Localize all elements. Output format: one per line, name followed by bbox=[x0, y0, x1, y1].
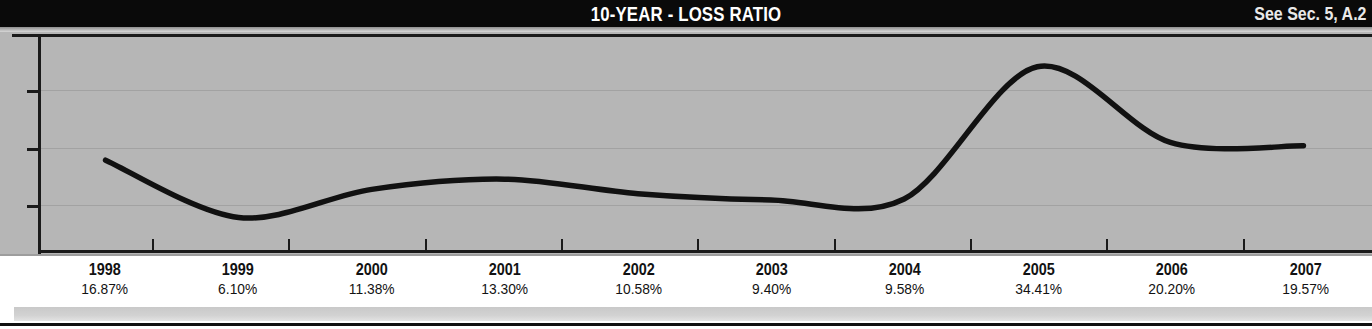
x-axis-year-label: 2003 bbox=[712, 260, 832, 279]
plot-area bbox=[0, 32, 1372, 254]
x-axis-label-band: 199816.87%19996.10%200011.38%200113.30%2… bbox=[0, 254, 1372, 308]
chart-header-bar: 10-YEAR - LOSS RATIO See Sec. 5, A.2 bbox=[0, 0, 1372, 27]
x-axis-year-label: 2001 bbox=[445, 260, 565, 279]
x-axis-label-cell: 200719.57% bbox=[1239, 260, 1372, 306]
x-axis-value-label: 20.20% bbox=[1111, 279, 1234, 298]
section-reference-note: See Sec. 5, A.2 bbox=[1254, 0, 1366, 27]
footer-shadow-strip bbox=[14, 307, 1372, 321]
x-axis-value-label: 9.40% bbox=[710, 279, 833, 298]
x-axis-label-cell: 19996.10% bbox=[171, 260, 304, 306]
loss-ratio-curve-path bbox=[106, 66, 1304, 218]
x-axis-year-label: 2004 bbox=[845, 260, 965, 279]
x-axis-label-cell: 20049.58% bbox=[838, 260, 971, 306]
loss-ratio-line-series bbox=[0, 32, 1372, 254]
x-axis-year-label: 1998 bbox=[45, 260, 165, 279]
x-axis-label-row: 199816.87%19996.10%200011.38%200113.30%2… bbox=[38, 260, 1372, 306]
x-axis-value-label: 9.58% bbox=[844, 279, 967, 298]
x-axis-label-cell: 200210.58% bbox=[572, 260, 705, 306]
x-axis-year-label: 2000 bbox=[311, 260, 431, 279]
x-axis-value-label: 6.10% bbox=[177, 279, 300, 298]
x-axis-year-label: 2005 bbox=[979, 260, 1099, 279]
x-axis-label-cell: 200620.20% bbox=[1105, 260, 1238, 306]
x-axis-year-label: 2007 bbox=[1245, 260, 1365, 279]
x-axis-value-label: 11.38% bbox=[310, 279, 433, 298]
x-axis-label-cell: 200011.38% bbox=[305, 260, 438, 306]
x-axis-year-label: 1999 bbox=[178, 260, 298, 279]
loss-ratio-chart-panel: 10-YEAR - LOSS RATIO See Sec. 5, A.2 199… bbox=[0, 0, 1372, 329]
x-axis-year-label: 2006 bbox=[1112, 260, 1232, 279]
x-axis-label-cell: 199816.87% bbox=[38, 260, 171, 306]
x-axis-label-cell: 200113.30% bbox=[438, 260, 571, 306]
footer-bottom-rule bbox=[0, 323, 1372, 326]
x-axis-value-label: 10.58% bbox=[577, 279, 700, 298]
x-axis-value-label: 13.30% bbox=[444, 279, 567, 298]
page-title: 10-YEAR - LOSS RATIO bbox=[137, 0, 1235, 27]
x-axis-label-cell: 200534.41% bbox=[972, 260, 1105, 306]
x-axis-value-label: 19.57% bbox=[1244, 279, 1367, 298]
x-axis-value-label: 34.41% bbox=[977, 279, 1100, 298]
x-axis-value-label: 16.87% bbox=[43, 279, 166, 298]
x-axis-label-cell: 20039.40% bbox=[705, 260, 838, 306]
x-axis-year-label: 2002 bbox=[578, 260, 698, 279]
